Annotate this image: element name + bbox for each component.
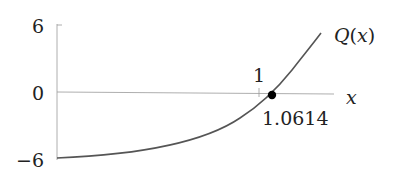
q-curve [57, 33, 321, 158]
curve-label-open: ( [350, 24, 357, 46]
x-axis [57, 92, 334, 94]
curve-label: Q(x) [334, 24, 375, 46]
y-label-6: 6 [32, 15, 44, 37]
curve-label-q: Q [334, 24, 350, 46]
y-label-neg6: −6 [16, 149, 44, 171]
curve-label-close: ) [368, 24, 375, 46]
root-point [268, 91, 276, 99]
root-label: 1.0614 [262, 107, 328, 129]
curve-label-x: x [357, 24, 368, 46]
y-label-0: 0 [32, 82, 44, 104]
x-axis-label: x [346, 86, 357, 108]
x-tick-label-1: 1 [253, 64, 265, 86]
chart: 6 0 −6 1 1.0614 x Q(x) [0, 0, 402, 171]
